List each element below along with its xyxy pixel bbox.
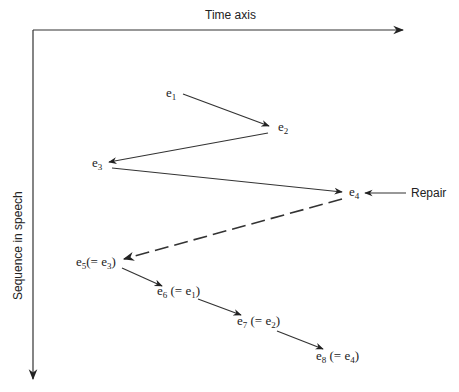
edge-e1-e2 [183,94,269,126]
edge-e7-e8 [277,331,323,349]
edge-e2-e3 [109,133,268,162]
edge-e3-e4 [112,168,342,192]
node-e2: e2 [278,119,288,136]
sequence-axis-label: Sequence in speech [11,191,25,300]
node-e5: e5(= e3) [76,254,116,271]
nodes: e1 e2 e3 e4 e5(= e3) e6 (= e1) e7 (= e2)… [76,85,360,365]
axes: Time axis Sequence in speech [11,8,403,379]
edges [109,94,406,349]
time-axis-label: Time axis [205,8,256,22]
edge-e6-e7 [198,299,241,315]
node-e4: e4 [349,184,360,201]
edge-e4-e5-dashed [124,199,342,259]
node-e8: e8 (= e4) [316,348,359,365]
repair-sequence-diagram: Time axis Sequence in speech e1 e2 e3 e4… [0,0,459,392]
repair-label: Repair [411,186,446,200]
edge-e5-e6 [122,268,162,286]
node-e6: e6 (= e1) [157,283,200,300]
node-e3: e3 [92,155,103,172]
node-e1: e1 [166,85,176,102]
node-e7: e7 (= e2) [237,313,280,330]
